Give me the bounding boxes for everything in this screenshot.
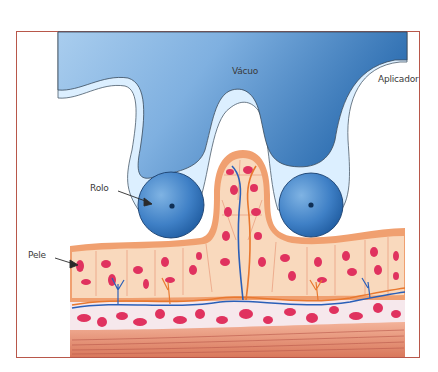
right-roller (279, 173, 343, 237)
vacuum-roller-diagram (0, 0, 438, 372)
roller-axle-icon (308, 202, 313, 207)
label-vacuum: Vácuo (232, 66, 258, 76)
label-roller: Rolo (90, 183, 109, 193)
label-skin: Pele (28, 250, 46, 260)
roller-axle-icon (169, 203, 174, 208)
label-applicator: Aplicador (378, 74, 418, 84)
